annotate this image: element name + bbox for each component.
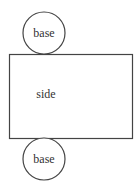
top-base-label: base — [33, 26, 54, 40]
bottom-base-label: base — [33, 152, 54, 166]
cylinder-net-diagram: side base base — [0, 0, 139, 188]
side-rectangle — [10, 55, 133, 139]
side-label: side — [36, 87, 55, 101]
